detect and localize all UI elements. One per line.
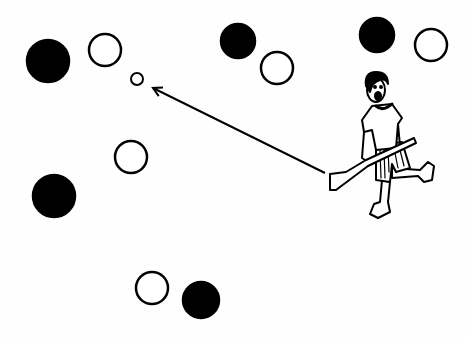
- black-player-marker-5: [183, 282, 219, 318]
- black-player-marker-2: [221, 24, 255, 58]
- white-player-marker-3: [415, 29, 447, 61]
- ball-icon: [131, 73, 143, 85]
- front-leg: [370, 180, 390, 218]
- pass-arrow: [153, 88, 325, 173]
- shirt: [362, 104, 402, 150]
- black-player-marker-3: [360, 18, 394, 52]
- white-player-marker-2: [261, 52, 293, 84]
- black-player-marker-1: [27, 40, 69, 82]
- hurler-player-figure: [330, 72, 434, 218]
- white-player-marker-1: [89, 34, 121, 66]
- hurling-drill-illustration: [0, 0, 468, 338]
- white-player-marker-4: [115, 141, 147, 173]
- white-player-marker-5: [136, 272, 168, 304]
- drill-canvas: [0, 0, 468, 338]
- black-player-marker-4: [33, 175, 75, 217]
- black-team-markers: [27, 18, 394, 318]
